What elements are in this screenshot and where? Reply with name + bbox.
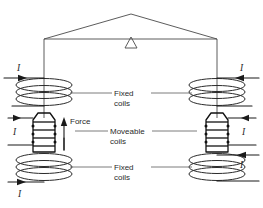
current-balance-diagram: I I I [0,0,263,208]
winding-node [32,141,35,144]
fixed-coil-bottom-right [189,154,245,181]
fixed-coils-bottom-label-line1: Fixed [114,163,134,172]
winding-node [227,133,230,136]
fixed-coils-top-label-line1: Fixed [114,89,134,98]
current-label-top-right: I [239,63,244,73]
fixed-coil-bottom-left [16,154,72,181]
current-arrow-mid-left [13,115,21,121]
fixed-coils-top-label-line2: coils [114,99,130,108]
moveable-coil-left [32,113,57,152]
current-label-mid-left: I [12,127,17,137]
current-label-bottom-left: I [17,189,22,199]
beam-apex-lines [44,14,217,39]
winding-node [227,125,230,128]
moveable-coils-label-line2: coils [110,137,126,146]
winding-node [32,125,35,128]
winding-node [54,133,57,136]
winding-node [54,141,57,144]
current-arrow-mid-right [241,115,249,121]
balance-beam [44,14,217,39]
winding-node [32,133,35,136]
winding-node [227,141,230,144]
winding-node [54,125,57,128]
fixed-coils-bottom-label-line2: coils [114,173,130,182]
current-label-mid-right: I [241,127,246,137]
winding-node [205,133,208,136]
force-arrow-head [61,117,67,126]
force-label: Force [70,117,91,126]
winding-node [205,141,208,144]
moveable-coil-right [205,113,230,152]
current-arrow-bottom-left [17,179,26,185]
moveable-coils-label-line1: Moveable [110,127,145,136]
current-label-top-left: I [16,63,21,73]
winding-node [205,125,208,128]
